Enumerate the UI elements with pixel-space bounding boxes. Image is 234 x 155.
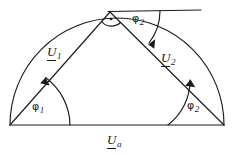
label-phi1-subscript: 1: [39, 105, 44, 115]
angle-arc-phi2-apex: [149, 11, 160, 43]
label-phi2-apex: φ2: [132, 13, 144, 27]
label-Ua: Ua: [107, 133, 121, 149]
right-angle-dot-icon: [110, 18, 113, 21]
label-U1: U1: [47, 45, 61, 61]
label-U2: U2: [161, 51, 175, 67]
label-U1-symbol: U: [47, 44, 56, 61]
label-phi2-right: φ2: [187, 100, 199, 114]
phasor-line-U1: [10, 12, 110, 125]
label-Ua-symbol: U: [107, 132, 116, 149]
phasor-diagram-canvas: [0, 0, 234, 155]
label-U1-subscript: 1: [56, 51, 61, 61]
label-phi2-right-subscript: 2: [194, 104, 199, 114]
phasor-line-U2: [110, 12, 224, 125]
right-angle-arc-icon: [102, 22, 121, 27]
label-phi2-apex-subscript: 2: [139, 17, 144, 27]
arrowhead-phi2-apex-icon: [148, 39, 155, 49]
label-phi1: φ1: [32, 101, 44, 115]
label-Ua-subscript: a: [116, 139, 121, 149]
arrowhead-phi2-right-icon: [185, 80, 195, 88]
label-U2-subscript: 2: [170, 57, 175, 67]
horizontal-reference-line: [108, 10, 201, 12]
label-U2-symbol: U: [161, 50, 170, 67]
phasor-diagram-figure: U1 U2 Ua φ1 φ2 φ2: [0, 0, 234, 155]
